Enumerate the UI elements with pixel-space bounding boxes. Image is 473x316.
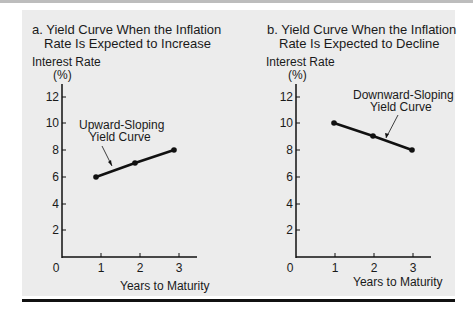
svg-text:2: 2	[371, 261, 378, 275]
panel-b-x-tick-labels: 0 1 2 3	[287, 261, 417, 275]
svg-text:6: 6	[52, 170, 59, 184]
svg-text:2: 2	[52, 223, 59, 237]
panel-a-chart: Interest Rate (%) 2 4 6 8 10 12	[32, 55, 210, 293]
svg-text:10: 10	[280, 116, 294, 130]
svg-text:3: 3	[176, 261, 183, 275]
panel-a-ylabel-unit: (%)	[53, 68, 72, 82]
panel-a-y-tick-labels: 2 4 6 8 10 12	[46, 90, 60, 237]
svg-text:1: 1	[98, 261, 105, 275]
svg-text:12: 12	[280, 90, 294, 104]
panel-b-point-1yr	[331, 120, 337, 126]
panel-a-point-1yr	[93, 174, 99, 180]
svg-text:6: 6	[286, 170, 293, 184]
svg-text:4: 4	[286, 197, 293, 211]
panel-b-y-tick-labels: 2 4 6 8 10 12	[280, 90, 294, 237]
panel-a-arrowhead-icon	[108, 160, 112, 166]
svg-text:12: 12	[46, 90, 60, 104]
panel-a-annotation-line2: Yield Curve	[89, 130, 151, 144]
panel-a-point-2yr	[132, 160, 138, 166]
svg-text:3: 3	[410, 261, 417, 275]
svg-text:10: 10	[46, 116, 60, 130]
svg-text:0: 0	[53, 261, 60, 275]
svg-text:0: 0	[287, 261, 294, 275]
svg-text:1: 1	[332, 261, 339, 275]
svg-text:2: 2	[137, 261, 144, 275]
svg-text:4: 4	[52, 197, 59, 211]
panel-a-x-tick-labels: 0 1 2 3	[53, 261, 183, 275]
svg-text:2: 2	[286, 223, 293, 237]
panel-b-chart: Interest Rate (%) 2 4 6 8 10 12 0	[266, 55, 454, 289]
panel-b-point-3yr	[409, 147, 415, 153]
svg-text:8: 8	[52, 143, 59, 157]
yield-curve-charts: Interest Rate (%) 2 4 6 8 10 12	[0, 0, 473, 316]
panel-b-ylabel-unit: (%)	[288, 68, 307, 82]
panel-b-point-2yr	[370, 133, 376, 139]
bottom-rule	[22, 299, 455, 302]
panel-a-ylabel: Interest Rate	[32, 55, 101, 69]
panel-a-point-3yr	[171, 147, 177, 153]
panel-a-xlabel: Years to Maturity	[120, 279, 210, 293]
panel-b-xlabel: Years to Maturity	[353, 275, 443, 289]
panel-b-ylabel: Interest Rate	[266, 55, 335, 69]
panel-b-annotation-line2: Yield Curve	[370, 100, 432, 114]
svg-text:8: 8	[286, 143, 293, 157]
